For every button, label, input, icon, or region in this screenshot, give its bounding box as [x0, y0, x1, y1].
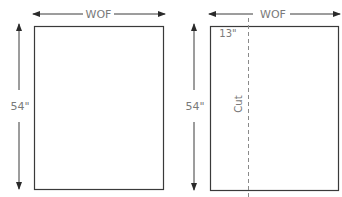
height-label: 54" — [10, 100, 29, 113]
fabric-cutting-diagram: WOF 54" 13" Cut WOF 54" — [0, 0, 342, 197]
width-label: WOF — [86, 8, 112, 21]
cut-label: Cut — [233, 95, 244, 112]
full-fabric-diagram: WOF 54" — [10, 8, 165, 190]
fabric-rectangle — [35, 27, 164, 190]
fabric-rectangle — [211, 27, 339, 191]
offset-label: 13" — [219, 28, 236, 39]
width-label: WOF — [260, 8, 286, 21]
cut-fabric-diagram: 13" Cut WOF 54" — [185, 8, 340, 197]
height-label: 54" — [185, 100, 204, 113]
